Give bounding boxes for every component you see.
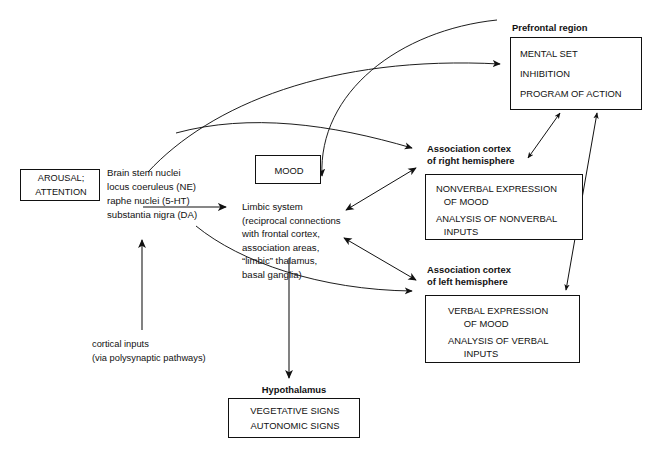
arousal-line-1: AROUSAL; (21, 171, 101, 185)
hypothalamus-item-1: VEGETATIVE SIGNS (229, 403, 361, 419)
hypothalamus-heading: Hypothalamus (228, 384, 360, 396)
arousal-line-2: ATTENTION (21, 185, 101, 199)
diagram-canvas: AROUSAL; ATTENTION Brain stem nuclei loc… (0, 0, 656, 461)
hypothalamus-item-2: AUTONOMIC SIGNS (229, 418, 361, 434)
prefrontal-item-2: INHIBITION (520, 66, 570, 82)
left-hemisphere-item-4: INPUTS (456, 346, 498, 362)
right-hemisphere-box: NONVERBAL EXPRESSION OF MOOD ANALYSIS OF… (425, 174, 583, 240)
node-prefrontal-region: Prefrontal region MENTAL SET INHIBITION … (510, 22, 644, 112)
right-hemisphere-heading-line-2: of right hemisphere (427, 155, 515, 167)
node-association-cortex-right: Association cortex of right hemisphere N… (425, 143, 585, 243)
edge-brainstem-to-right-hemisphere (176, 123, 412, 148)
node-brain-stem-nuclei: Brain stem nuclei locus coeruleus (NE) r… (107, 166, 227, 226)
limbic-line-5: “limbic” thalamus, (242, 254, 317, 269)
left-hemisphere-heading-line-2: of left hemisphere (427, 276, 508, 288)
node-mood: MOOD (255, 155, 321, 184)
limbic-line-6: basal ganglia) (242, 268, 302, 283)
brainstem-line-1: Brain stem nuclei (107, 166, 181, 181)
limbic-line-1: Limbic system (242, 200, 303, 215)
cortical-inputs-line-1: cortical inputs (92, 337, 149, 352)
node-hypothalamus: Hypothalamus VEGETATIVE SIGNS AUTONOMIC … (228, 384, 362, 440)
prefrontal-item-1: MENTAL SET (520, 46, 578, 62)
mood-label: MOOD (256, 163, 322, 179)
left-hemisphere-item-2: OF MOOD (456, 316, 509, 332)
prefrontal-heading: Prefrontal region (512, 22, 588, 34)
right-hemisphere-item-4: INPUTS (436, 224, 478, 240)
node-limbic-system: Limbic system (reciprocal connections wi… (242, 200, 360, 290)
limbic-line-4: association areas, (242, 241, 319, 256)
node-cortical-inputs: cortical inputs (via polysynaptic pathwa… (92, 337, 262, 369)
node-association-cortex-left: Association cortex of left hemisphere VE… (425, 264, 585, 369)
limbic-line-3: with frontal cortex, (242, 227, 320, 242)
prefrontal-box: MENTAL SET INHIBITION PROGRAM OF ACTION (510, 37, 642, 110)
brainstem-line-3: raphe nuclei (5-HT) (107, 194, 190, 209)
limbic-line-2: (reciprocal connections (242, 214, 341, 229)
hypothalamus-box: VEGETATIVE SIGNS AUTONOMIC SIGNS (228, 398, 360, 438)
node-arousal-attention: AROUSAL; ATTENTION (20, 169, 100, 201)
cortical-inputs-line-2: (via polysynaptic pathways) (92, 351, 206, 366)
left-hemisphere-box: VERBAL EXPRESSION OF MOOD ANALYSIS OF VE… (425, 295, 580, 363)
right-hemisphere-item-2: OF MOOD (436, 194, 489, 210)
brainstem-line-4: substantia nigra (DA) (107, 208, 197, 223)
brainstem-line-2: locus coeruleus (NE) (107, 180, 196, 195)
prefrontal-item-3: PROGRAM OF ACTION (520, 86, 622, 102)
